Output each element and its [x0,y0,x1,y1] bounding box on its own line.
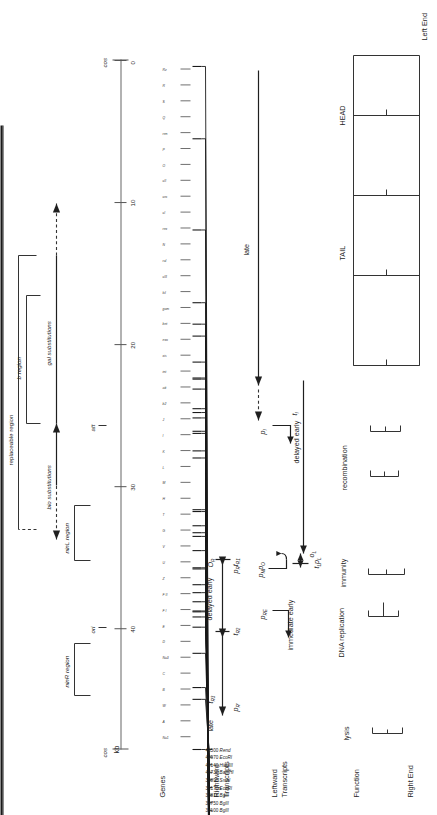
region-label-ori: ori [88,626,95,633]
rotated-figure-stage: Right End Function Leftward Transcripts … [0,0,437,815]
region-label-bio-substitutions: bio substitutions [44,465,51,509]
region-label-gal-substitutions: gal substitutions [44,321,51,365]
region-label-att: att [88,424,95,431]
region-label-replaceable-region: replaceable region [6,414,13,465]
region-label-b-region: b region [14,357,21,379]
lambda-genetic-map: Right End Function Leftward Transcripts … [0,0,437,815]
region-brackets [0,0,437,815]
region-label-ninR: ninR region [62,655,69,687]
region-label-ninL: ninL region [62,522,69,553]
